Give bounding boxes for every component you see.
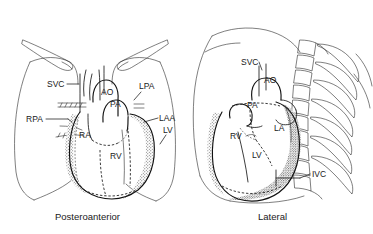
pa-label-rpa: RPA	[26, 114, 72, 124]
lat-caption: Lateral	[258, 211, 287, 222]
pa-label-lpa: LPA	[134, 81, 155, 108]
figure-canvas: SVC RPA AO PA RA RV LPA LAA LV Posteroan…	[0, 0, 373, 234]
pa-label-laa: LAA	[144, 113, 175, 123]
pa-aorta-outline	[93, 80, 118, 116]
lat-label-rv-text: RV	[230, 131, 242, 141]
pa-label-pa-text: PA	[110, 99, 121, 109]
pa-label-svc: SVC	[47, 79, 79, 89]
pa-label-svc-text: SVC	[47, 79, 64, 89]
pa-label-lv-text: LV	[163, 125, 173, 135]
pa-caption: Posteroanterior	[55, 211, 120, 222]
pa-clavicles	[22, 40, 168, 70]
lat-label-ao-text: AO	[264, 75, 277, 85]
pa-label-rv-text: RV	[110, 151, 122, 161]
lat-label-pa-text: PA	[247, 100, 258, 110]
pa-label-laa-text: LAA	[159, 113, 175, 123]
pa-label-ao-text: AO	[101, 87, 114, 97]
pa-label-ra-text: RA	[79, 130, 91, 140]
pa-left-border-shading	[122, 116, 153, 200]
panel-lateral: SVC AO PA RV LA LV IVC Lateral	[193, 28, 372, 222]
panel-posteroanterior: SVC RPA AO PA RA RV LPA LAA LV Posteroan…	[15, 40, 176, 222]
lat-label-lv-text: LV	[252, 150, 262, 160]
pa-thorax-outline	[15, 58, 176, 202]
lat-label-svc-text: SVC	[241, 57, 258, 67]
pa-label-lpa-text: LPA	[139, 81, 155, 91]
pa-chamber-divisions	[75, 114, 136, 196]
anatomical-figure: SVC RPA AO PA RA RV LPA LAA LV Posteroan…	[0, 0, 373, 234]
pa-label-rpa-text: RPA	[26, 114, 43, 124]
lat-label-ivc-text: IVC	[312, 169, 326, 179]
lat-label-la-text: LA	[274, 123, 285, 133]
pa-label-lv: LV	[160, 125, 173, 144]
